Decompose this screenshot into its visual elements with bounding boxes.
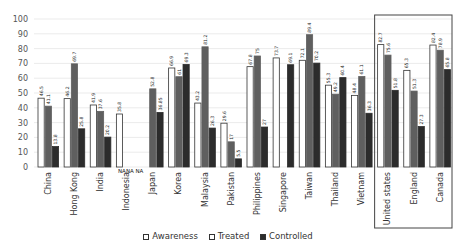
- bar-treated: [71, 64, 77, 167]
- bar-treated: [97, 111, 103, 167]
- legend-item-treated: Treated: [209, 231, 250, 241]
- bar-controlled: [366, 113, 372, 167]
- data-label: 29.6: [222, 111, 227, 121]
- bar-chart: 0102030405060708090100 46.541.113.846.26…: [0, 0, 456, 250]
- y-tick-label: 80: [18, 45, 28, 54]
- bar-treated: [306, 35, 312, 167]
- bar-treated: [45, 106, 51, 167]
- y-tick-label: 100: [13, 15, 28, 24]
- data-label: 46.2: [65, 86, 70, 96]
- bar-awareness: [404, 70, 410, 167]
- bar-awareness: [116, 114, 122, 167]
- data-label: 65.8: [445, 57, 450, 67]
- bar-awareness: [221, 123, 227, 167]
- data-label: 73.7: [274, 46, 279, 56]
- y-tick-label: 90: [18, 30, 28, 39]
- data-label: 41.1: [46, 94, 51, 104]
- controlled-swatch-icon: [260, 234, 266, 240]
- data-label: 36.3: [367, 101, 372, 111]
- category-label: China: [44, 172, 53, 195]
- bar-treated: [150, 89, 156, 167]
- bar-controlled: [288, 65, 294, 167]
- bar-treated: [333, 94, 339, 167]
- data-label: 27.3: [419, 114, 424, 124]
- category-label: Singapore: [279, 172, 288, 212]
- y-tick-label: 70: [18, 59, 28, 68]
- category-label: England: [410, 172, 419, 204]
- bar-controlled: [444, 70, 450, 167]
- y-tick-label: 0: [23, 163, 28, 172]
- y-axis: 0102030405060708090100: [13, 15, 28, 172]
- bar-controlled: [392, 90, 398, 167]
- data-label: 52.8: [150, 77, 155, 87]
- data-label: 70.2: [314, 51, 319, 61]
- bar-controlled: [157, 112, 163, 167]
- bar-treated: [411, 91, 417, 167]
- bar-awareness: [299, 60, 305, 167]
- bar-controlled: [418, 127, 424, 167]
- bar-treated: [437, 50, 443, 167]
- bar-awareness: [64, 99, 70, 167]
- bar-awareness: [195, 103, 201, 167]
- bar-controlled: [52, 147, 58, 167]
- category-label: Taiwan: [305, 172, 314, 200]
- data-label: 67.8: [248, 54, 253, 64]
- data-label: 66.9: [169, 56, 174, 66]
- y-tick-label: 30: [18, 119, 28, 128]
- bar-treated: [254, 56, 260, 167]
- category-label: India: [96, 172, 105, 192]
- category-label: Vietnam: [357, 172, 366, 206]
- data-label: 17: [229, 134, 234, 140]
- awareness-swatch-icon: [143, 234, 149, 240]
- bar-awareness: [378, 45, 384, 167]
- data-label: 5.5: [236, 149, 241, 156]
- bar-awareness: [352, 95, 358, 167]
- treated-swatch-icon: [209, 234, 215, 240]
- bar-awareness: [247, 67, 253, 167]
- bar-controlled: [79, 129, 85, 167]
- data-label: 75: [255, 48, 260, 54]
- data-label: 82.7: [378, 32, 383, 42]
- data-label: 61.1: [359, 64, 364, 74]
- data-label: 55.3: [326, 73, 331, 83]
- data-label: 75.6: [386, 43, 391, 53]
- category-label: United states: [383, 172, 392, 225]
- bar-controlled: [183, 64, 189, 167]
- bar-treated: [385, 55, 391, 167]
- data-label: 49.2: [333, 82, 338, 92]
- legend-item-awareness: Awareness: [143, 231, 198, 241]
- bar-controlled: [209, 128, 215, 167]
- bar-controlled: [235, 159, 241, 167]
- category-label: Hong Kong: [70, 172, 79, 216]
- category-label: Pakistan: [227, 172, 236, 206]
- bar-treated: [359, 77, 365, 167]
- data-label: 69.1: [288, 52, 293, 62]
- bar-awareness: [325, 85, 331, 167]
- data-label: 37.6: [98, 99, 103, 109]
- data-label: 60.4: [340, 65, 345, 75]
- data-label: 35.8: [117, 102, 122, 112]
- category-label: Philippines: [253, 172, 262, 215]
- bar-controlled: [340, 78, 346, 167]
- data-label: 46.5: [39, 86, 44, 96]
- bar-controlled: [105, 137, 111, 167]
- data-label: 41.9: [91, 93, 96, 103]
- bar-awareness: [430, 45, 436, 167]
- bar-treated: [228, 142, 234, 167]
- category-label: Malaysia: [201, 172, 210, 207]
- data-label: 61: [177, 69, 182, 75]
- data-label: 25.8: [79, 117, 84, 127]
- data-label: 27: [262, 119, 267, 125]
- category-label: Thailand: [331, 172, 340, 207]
- bar-awareness: [38, 98, 44, 167]
- bar-controlled: [314, 63, 320, 167]
- data-label: 81.2: [203, 35, 208, 45]
- data-label: 43.2: [195, 91, 200, 101]
- data-label: 65.3: [404, 58, 409, 68]
- category-label: Japan: [148, 172, 157, 195]
- bar-awareness: [90, 105, 96, 167]
- data-label: 36.85: [158, 97, 163, 110]
- data-label: 48.4: [352, 83, 357, 93]
- data-label: 26.3: [210, 116, 215, 126]
- data-label: 51.8: [393, 78, 398, 88]
